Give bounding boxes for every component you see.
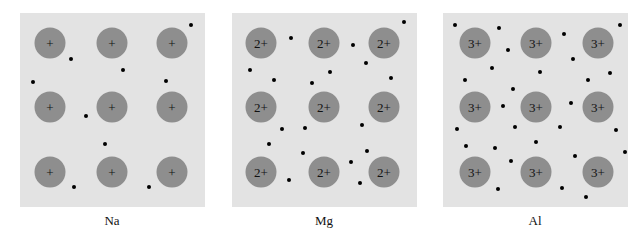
positive-ion: 2+ [369,92,400,123]
positive-ion: 2+ [369,28,400,59]
electron-dot [560,186,564,190]
positive-ion: + [35,92,66,123]
electron-dot [364,61,368,65]
positive-ion: 3+ [521,28,552,59]
electron-dot [623,150,627,154]
panel-mg: 2+2+2+2+2+2+2+2+2+ [232,13,417,207]
positive-ion: + [157,28,188,59]
positive-ion: 3+ [583,92,614,123]
panel-al: 3+3+3+3+3+3+3+3+3+ [443,13,628,207]
electron-dot [538,70,542,74]
electron-dot [287,178,291,182]
electron-dot [573,154,577,158]
electron-dot [496,187,500,191]
positive-ion: 3+ [521,157,552,188]
positive-ion: 3+ [460,92,491,123]
positive-ion: 2+ [246,157,277,188]
positive-ion: + [97,28,128,59]
electron-dot [464,144,468,148]
electron-dot [571,57,575,61]
positive-ion: + [97,157,128,188]
electron-dot [328,70,332,74]
label-mg: Mg [315,213,333,229]
positive-ion: 2+ [246,28,277,59]
electron-dot [497,26,501,30]
electron-dot [248,68,252,72]
electron-dot [189,23,193,27]
positive-ion: + [35,28,66,59]
electron-dot [349,160,353,164]
positive-ion: 3+ [460,28,491,59]
electron-dot [358,181,362,185]
electron-dot [608,71,612,75]
positive-ion: + [157,92,188,123]
electron-dot [303,126,307,130]
electron-dot [562,32,566,36]
electron-dot [501,104,505,108]
electron-dot [267,142,271,146]
electron-dot [509,159,513,163]
electron-dot [360,123,364,127]
electron-dot [147,185,151,189]
positive-ion: 3+ [583,28,614,59]
electron-dot [103,142,107,146]
electron-dot [72,185,76,189]
electron-dot [506,48,510,52]
positive-ion: 3+ [583,157,614,188]
electron-dot [490,66,494,70]
electron-dot [121,68,125,72]
electron-dot [310,81,314,85]
electron-dot [164,79,168,83]
electron-dot [389,76,393,80]
positive-ion: 2+ [309,157,340,188]
electron-dot [351,43,355,47]
electron-dot [511,87,515,91]
electron-dot [569,101,573,105]
electron-dot [493,146,497,150]
positive-ion: 2+ [246,92,277,123]
electron-dot [586,78,590,82]
positive-ion: 2+ [309,28,340,59]
label-na: Na [104,213,119,229]
positive-ion: 3+ [521,92,552,123]
electron-dot [455,127,459,131]
electron-dot [513,125,517,129]
electron-dot [365,149,369,153]
electron-dot [463,78,467,82]
positive-ion: + [157,157,188,188]
electron-dot [534,140,538,144]
positive-ion: + [35,157,66,188]
positive-ion: 3+ [460,157,491,188]
electron-dot [84,114,88,118]
positive-ion: 2+ [309,92,340,123]
electron-dot [614,128,618,132]
electron-dot [69,57,73,61]
electron-dot [453,23,457,27]
panel-na: +++++++++ [20,13,205,207]
electron-dot [280,127,284,131]
label-al: Al [529,213,542,229]
electron-dot [584,195,588,199]
electron-dot [402,20,406,24]
electron-dot [558,125,562,129]
electron-dot [289,36,293,40]
electron-dot [272,78,276,82]
positive-ion: 2+ [369,157,400,188]
electron-dot [301,151,305,155]
electron-dot [31,80,35,84]
positive-ion: + [97,92,128,123]
electron-dot [618,23,622,27]
